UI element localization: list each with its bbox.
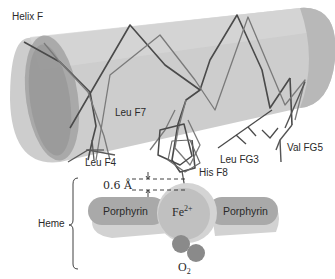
iron-charge: 2+ [184,204,193,213]
iron-label: Fe2+ [172,205,193,218]
oxygen-label: O2 [178,261,191,276]
heme-helix-diagram: Helix F Leu F7 Leu F4 His F8 Leu FG3 Val… [0,0,335,279]
diagram-canvas [0,0,335,279]
oxygen-symbol: O [178,260,187,274]
distance-label: 0.6 Å [103,180,132,191]
his-f8-label: His F8 [199,168,228,178]
leu-f4-label: Leu F4 [85,158,116,168]
leu-f7-label: Leu F7 [115,108,146,118]
iron-symbol: Fe [172,205,184,219]
heme-label: Heme [38,219,65,229]
heme-brace [69,178,78,269]
leu-fg3-label: Leu FG3 [220,155,259,165]
porphyrin-left-label: Porphyrin [103,206,148,217]
helix-f-label: Helix F [12,12,43,22]
val-fg5-label: Val FG5 [287,143,323,153]
oxygen-subscript: 2 [187,267,191,276]
porphyrin-right-label: Porphyrin [223,206,268,217]
